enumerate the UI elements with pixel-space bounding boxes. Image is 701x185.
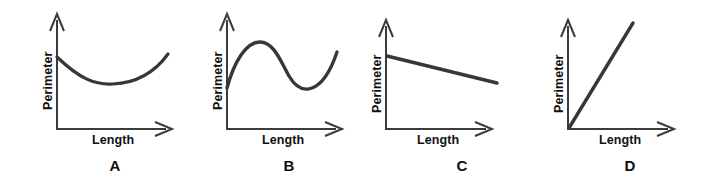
curve-d: [569, 23, 633, 128]
x-axis-label-b: Length: [262, 134, 304, 147]
x-axis-label-d: Length: [599, 134, 641, 147]
panel-a: Perimeter Length A: [0, 0, 176, 185]
panel-letter-a: A: [95, 158, 135, 173]
figure-container: Perimeter Length A Perimeter Length B: [0, 0, 701, 185]
panel-letter-b: B: [269, 158, 309, 173]
panel-a-graph: [0, 0, 176, 150]
panel-b-graph: [176, 0, 352, 150]
curve-b: [227, 42, 337, 89]
y-axis-label-a: Perimeter: [42, 51, 55, 110]
panel-d: Perimeter Length D: [528, 0, 701, 185]
panel-letter-d: D: [610, 158, 650, 173]
x-axis-label-a: Length: [92, 134, 134, 147]
y-axis-label-b: Perimeter: [212, 51, 225, 110]
panel-letter-c: C: [442, 158, 482, 173]
y-axis-label-c: Perimeter: [371, 54, 384, 113]
x-axis-label-c: Length: [417, 134, 459, 147]
y-axis-label-d: Perimeter: [553, 54, 566, 113]
panel-b: Perimeter Length B: [176, 0, 352, 185]
curve-a: [57, 54, 168, 84]
panel-c: Perimeter Length C: [352, 0, 528, 185]
curve-c: [387, 56, 497, 83]
